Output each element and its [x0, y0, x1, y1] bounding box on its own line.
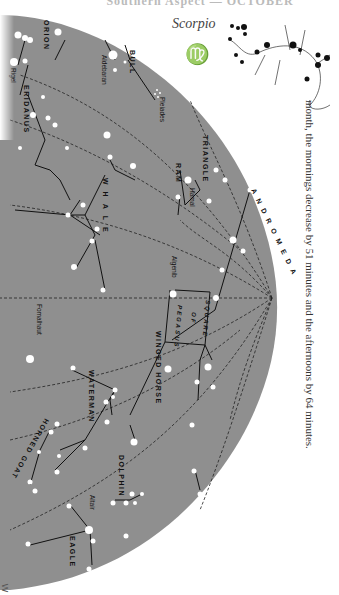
body-paragraph: month, the mornings decrease by 51 minut… [304, 100, 316, 560]
label-altair: Altair [89, 495, 96, 511]
label-fomalhaut: Fomalhaut [36, 304, 43, 335]
label-eagle: EAGLE [69, 536, 76, 568]
label-winged-horse: WINGED HORSE [155, 331, 162, 405]
label-dolphin: DOLPHIN [118, 455, 125, 497]
zodiac-sign-icon: ♍ [185, 42, 210, 66]
label-of: OF [190, 312, 197, 325]
scorpion-stars [228, 24, 330, 82]
page-gutter-shadow [0, 0, 14, 140]
label-pleiades: Pleiades [159, 97, 166, 123]
label-eridanus: ERIDANUS [23, 85, 30, 134]
sky-disk [0, 15, 277, 590]
compass-west-mark: W [0, 584, 10, 593]
label-waterman: WATERMAN [88, 370, 95, 423]
star-chart: ORION Rigel ERIDANUS BULL Aldebaran Plei… [0, 0, 339, 595]
label-whale: WHALE [102, 178, 109, 239]
scorpion-illustration [230, 25, 330, 109]
label-hamal: Hamal [189, 188, 196, 207]
label-orion: ORION [43, 20, 50, 50]
label-triangle: TRIANGLE [202, 135, 209, 183]
label-bull: BULL [129, 50, 136, 75]
label-algenib: Algenib [170, 256, 178, 278]
label-ram: RAM [175, 163, 182, 183]
label-aldebaran: Aldebaran [101, 55, 108, 85]
zodiac-name: Scorpio [172, 16, 216, 32]
